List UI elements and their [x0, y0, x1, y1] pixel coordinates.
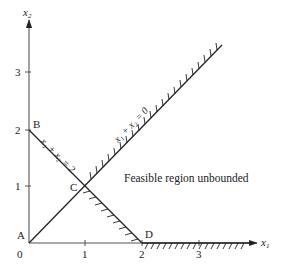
origin-label: 0 — [17, 248, 23, 260]
point-b-label: B — [33, 118, 40, 130]
x2-axis-label: x2 — [22, 6, 32, 20]
hatch-c-d — [83, 191, 138, 241]
label-x1-plus-x2-eq-2: x₁ + x₂ = 2 — [38, 135, 78, 175]
y-tick-1: 1 — [15, 180, 21, 192]
y-tick-3: 3 — [15, 66, 21, 78]
point-c-label: C — [70, 181, 77, 193]
x-tick-2: 2 — [139, 248, 145, 260]
hatch-x-axis — [145, 243, 244, 249]
x-tick-1: 1 — [82, 248, 88, 260]
point-a-label: A — [17, 229, 25, 241]
x-tick-3: 3 — [196, 248, 202, 260]
point-d-label: D — [145, 228, 153, 240]
y-tick-2: 2 — [15, 124, 21, 136]
hatch-c-up — [90, 43, 217, 179]
lp-diagram: 0 1 2 3 1 2 3 x2 x1 — [0, 0, 284, 276]
feasible-region-annotation: Feasible region unbounded — [124, 172, 249, 185]
x1-axis-label: x1 — [260, 236, 269, 250]
